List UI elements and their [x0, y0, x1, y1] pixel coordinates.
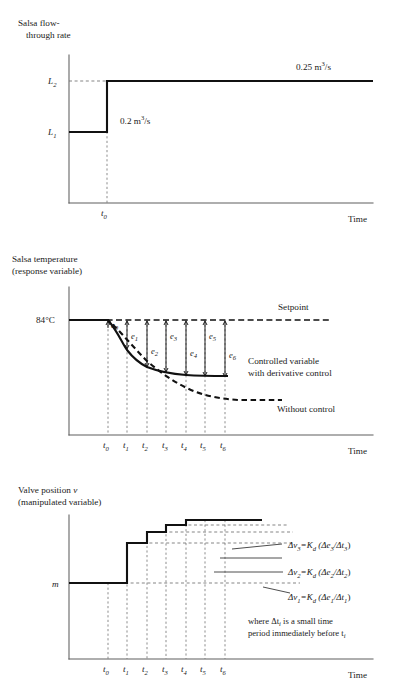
- flow-value-after: 0.25 m3/s: [296, 60, 331, 72]
- temp-error-arrows: [106, 321, 227, 377]
- valve-note-line1: where Δti is a small time: [248, 616, 333, 627]
- flow-y-tick-l1: L1: [47, 127, 56, 139]
- flow-x-axis-label: Time: [348, 214, 367, 224]
- temp-x-tick-t3: t3: [162, 440, 169, 452]
- valve-chart-title-line2: (manipulated variable): [18, 497, 101, 507]
- temp-x-tick-t4: t4: [181, 440, 188, 452]
- flow-y-tick-l2: L2: [47, 76, 57, 88]
- temp-chart-title-line2: (response variable): [12, 266, 82, 276]
- valve-leader-dv3: [232, 544, 282, 549]
- temp-error-label-e5: e5: [209, 331, 217, 342]
- temp-x-axis-label: Time: [348, 446, 367, 456]
- valve-staircase-curve: [69, 520, 262, 583]
- temp-y-tick-84c: 84°C: [36, 315, 55, 325]
- valve-x-tick-t5: t5: [200, 664, 207, 676]
- valve-chart-title-line1: Valve position v: [18, 485, 78, 495]
- temp-error-label-e6: e6: [229, 350, 237, 361]
- valve-x-tick-t1: t1: [123, 664, 129, 676]
- temp-error-label-e0: e0: [111, 320, 119, 331]
- flow-chart-title-line1: Salsa flow-: [18, 18, 60, 28]
- valve-x-tick-t2: t2: [142, 664, 149, 676]
- flow-step-curve: [69, 81, 373, 132]
- flow-chart-title-line2: through rate: [26, 30, 71, 40]
- valve-equation-dv1: Δv1=Kd (Δe1/Δt1): [287, 592, 350, 604]
- temp-x-tick-t0: t0: [103, 440, 110, 452]
- temp-controlled-curve: [69, 320, 228, 376]
- chart-valve-position: Valve position v (manipulated variable): [0, 482, 397, 690]
- temp-x-tick-t1: t1: [123, 440, 129, 452]
- temp-error-label-e2: e2: [151, 346, 159, 357]
- flow-x-tick-t0: t0: [101, 208, 108, 220]
- valve-y-tick-m: m: [52, 579, 59, 589]
- valve-x-tick-t3: t3: [162, 664, 169, 676]
- temp-x-tick-t5: t5: [200, 440, 207, 452]
- valve-x-tick-t4: t4: [181, 664, 188, 676]
- valve-x-tick-t6: t6: [220, 664, 227, 676]
- valve-x-tick-t0: t0: [103, 664, 110, 676]
- flow-value-before: 0.2 m3/s: [120, 114, 151, 126]
- control-system-figure: Salsa flow- through rate L1 L2 t0 0.2 m3…: [0, 0, 397, 690]
- temp-without-control-label: Without control: [277, 404, 336, 414]
- valve-equation-dv3: Δv3=Kd (Δe3/Δt3): [287, 540, 350, 552]
- temp-setpoint-label: Setpoint: [278, 302, 309, 312]
- temp-error-label-e4: e4: [190, 348, 198, 359]
- temp-controlled-label-line1: Controlled variable: [248, 356, 319, 366]
- valve-x-axis-label: Time: [348, 670, 367, 680]
- valve-note-line2: period immediately before ti: [248, 628, 346, 639]
- temp-error-label-e3: e3: [170, 331, 178, 342]
- valve-leader-dv1: [263, 587, 290, 593]
- temp-controlled-label-line2: with derivative control: [248, 368, 332, 378]
- temp-x-tick-t6: t6: [220, 440, 227, 452]
- temp-chart-title-line1: Salsa temperature: [12, 254, 78, 264]
- chart-salsa-flow-through-rate: Salsa flow- through rate L1 L2 t0 0.2 m3…: [0, 0, 397, 240]
- temp-x-tick-t2: t2: [142, 440, 149, 452]
- chart-salsa-temperature: Salsa temperature (response variable): [0, 240, 397, 490]
- valve-equation-dv2: Δv2=Kd (Δe2/Δt2): [287, 567, 350, 579]
- temp-error-label-e1: e1: [131, 331, 138, 342]
